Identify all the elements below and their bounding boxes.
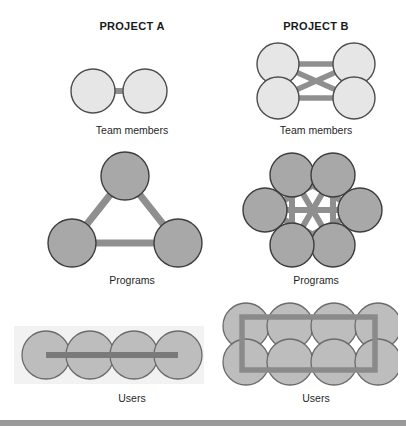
node (311, 223, 355, 267)
diagram-project-b-team-members (250, 40, 382, 122)
node (257, 77, 299, 119)
row-label-a-users: Users (52, 392, 212, 404)
node (123, 69, 167, 113)
column-title-project-b: PROJECT B (236, 20, 396, 32)
diagram-project-b-users (222, 300, 398, 388)
row-label-b-team-members: Team members (236, 124, 396, 136)
node (48, 219, 96, 267)
diagram-project-a-programs (32, 150, 217, 270)
node (101, 152, 149, 200)
row-label-b-users: Users (236, 392, 396, 404)
node (267, 339, 313, 385)
row-label-a-team-members: Team members (52, 124, 212, 136)
node (333, 77, 375, 119)
node (71, 69, 115, 113)
row-label-a-programs: Programs (52, 274, 212, 286)
node (311, 339, 357, 385)
diagram-project-b-programs (240, 150, 385, 270)
node (270, 223, 314, 267)
node (243, 188, 287, 232)
node (223, 339, 269, 385)
column-title-project-a: PROJECT A (52, 20, 212, 32)
node (154, 219, 202, 267)
node (270, 153, 314, 197)
node (338, 188, 382, 232)
project-comparison-diagram: PROJECT A PROJECT B Team members Team me… (0, 0, 406, 429)
diagram-project-a-team-members (40, 62, 225, 120)
diagram-project-a-users (14, 322, 204, 388)
row-label-b-programs: Programs (236, 274, 396, 286)
node (311, 153, 355, 197)
